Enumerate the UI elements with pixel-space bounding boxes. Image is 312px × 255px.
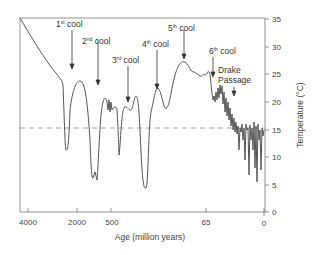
- y-ticks: [265, 19, 269, 212]
- x-tick-65: 65: [202, 218, 211, 227]
- y-tick-5: 5: [272, 181, 277, 190]
- temperature-chart: 35 30 25 20 15 10 5 0 Temperature (°C) 4…: [0, 0, 312, 255]
- label-4th-cool: 4th cool: [142, 39, 169, 49]
- y-tick-25: 25: [272, 70, 281, 79]
- y-tick-35: 35: [272, 15, 281, 24]
- x-tick-2000: 2000: [68, 218, 86, 227]
- y-tick-20: 20: [272, 98, 281, 107]
- y-tick-15: 15: [272, 126, 281, 135]
- x-tick-0: 0: [262, 219, 267, 228]
- label-5th-cool: 5th cool: [168, 23, 195, 33]
- y-tick-labels: 35 30 25 20 15 10 5 0: [272, 15, 281, 217]
- label-3rd-cool: 3rd cool: [112, 55, 139, 65]
- y-tick-0: 0: [272, 208, 277, 217]
- x-tick-500: 500: [105, 218, 119, 227]
- label-2nd-cool: 2nd cool: [82, 36, 110, 46]
- x-tick-4000: 4000: [19, 218, 37, 227]
- label-1st-cool: 1st cool: [56, 19, 83, 29]
- label-passage: Passage: [218, 75, 251, 85]
- y-tick-10: 10: [272, 153, 281, 162]
- label-drake: Drake: [218, 65, 241, 75]
- y-tick-30: 30: [272, 43, 281, 52]
- y-axis-title: Temperature (°C): [295, 82, 305, 147]
- label-6th-cool: 6th cool: [209, 46, 236, 56]
- x-tick-labels: 4000 2000 500 65 0: [19, 218, 267, 228]
- x-axis-title: Age (million years): [115, 232, 186, 242]
